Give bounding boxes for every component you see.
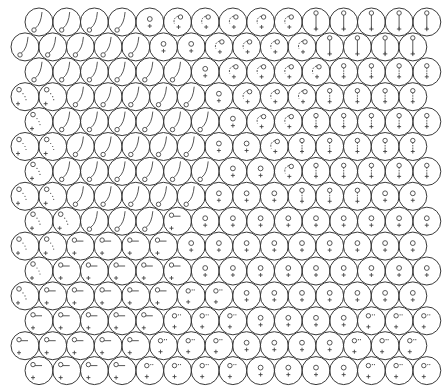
glyph-cell <box>136 108 164 136</box>
glyph-cell <box>302 108 330 136</box>
glyph-cell <box>219 207 247 235</box>
glyph-cell <box>94 232 122 260</box>
glyph-cell <box>274 157 302 185</box>
glyph-cell <box>260 332 288 360</box>
glyph-cell <box>164 357 192 385</box>
glyph-cell <box>330 257 358 285</box>
glyph-cell <box>247 357 275 385</box>
glyph-cell <box>385 357 413 385</box>
glyph-cell <box>11 33 39 61</box>
glyph-cell <box>219 157 247 185</box>
glyph-cell <box>302 8 330 36</box>
glyph-cell <box>39 332 67 360</box>
glyph-cell <box>330 157 358 185</box>
glyph-cell <box>191 307 219 335</box>
glyph-cell <box>164 157 192 185</box>
glyph-cell <box>316 182 344 210</box>
glyph-cell <box>316 133 344 161</box>
glyph-cell <box>80 8 108 36</box>
glyph-cell <box>177 33 205 61</box>
glyph-cell <box>94 83 122 111</box>
glyph-cell <box>385 207 413 235</box>
glyph-cell <box>11 282 39 310</box>
glyph-cell <box>164 257 192 285</box>
glyph-cell <box>136 58 164 86</box>
glyph-cell <box>177 282 205 310</box>
glyph-cell <box>150 133 178 161</box>
glyph-cell <box>343 133 371 161</box>
glyph-cell <box>260 83 288 111</box>
glyph-cell <box>39 133 67 161</box>
glyph-cell <box>108 108 136 136</box>
glyph-cell <box>371 232 399 260</box>
glyph-cell <box>371 282 399 310</box>
glyph-cell <box>53 307 81 335</box>
glyph-cell <box>260 33 288 61</box>
glyph-cell <box>274 8 302 36</box>
glyph-cell <box>357 108 385 136</box>
glyph-cell <box>39 232 67 260</box>
glyph-cell <box>343 282 371 310</box>
glyph-grid-figure <box>0 0 448 392</box>
glyph-cell <box>66 282 94 310</box>
glyph-cell <box>330 307 358 335</box>
glyph-cell <box>413 58 441 86</box>
glyph-cell <box>80 307 108 335</box>
glyph-cell <box>399 33 427 61</box>
glyph-cell <box>191 207 219 235</box>
glyph-cell <box>53 257 81 285</box>
glyph-cell <box>385 307 413 335</box>
glyph-cell <box>108 257 136 285</box>
glyph-cell <box>122 182 150 210</box>
glyph-cell <box>150 332 178 360</box>
glyph-cell <box>25 8 53 36</box>
glyph-cell <box>274 257 302 285</box>
glyph-cell <box>108 207 136 235</box>
glyph-cell <box>247 207 275 235</box>
glyph-cell <box>122 133 150 161</box>
glyph-cell <box>25 58 53 86</box>
glyph-cell <box>260 232 288 260</box>
glyph-cell <box>108 58 136 86</box>
glyph-cell <box>288 282 316 310</box>
glyph-cell <box>385 157 413 185</box>
glyph-cell <box>94 182 122 210</box>
glyph-cell <box>371 133 399 161</box>
glyph-cell <box>66 232 94 260</box>
glyph-cell <box>343 33 371 61</box>
glyph-cell <box>260 182 288 210</box>
glyph-cell <box>80 157 108 185</box>
glyph-cell <box>316 282 344 310</box>
glyph-cell <box>385 257 413 285</box>
glyph-cell <box>219 108 247 136</box>
glyph-cell <box>25 257 53 285</box>
glyph-cell <box>136 357 164 385</box>
glyph-cell <box>219 58 247 86</box>
glyph-cell <box>164 207 192 235</box>
glyph-cell <box>247 307 275 335</box>
glyph-cell <box>80 108 108 136</box>
glyph-cell <box>205 133 233 161</box>
glyph-cell <box>371 33 399 61</box>
glyph-cell <box>247 257 275 285</box>
glyph-cell <box>247 58 275 86</box>
glyph-cell <box>288 133 316 161</box>
glyph-cell <box>399 83 427 111</box>
glyph-cell <box>205 182 233 210</box>
glyph-cell <box>80 207 108 235</box>
glyph-cell <box>80 257 108 285</box>
glyph-cell <box>136 157 164 185</box>
glyph-cell <box>330 58 358 86</box>
glyph-cell <box>108 307 136 335</box>
glyph-cell <box>25 108 53 136</box>
glyph-cell <box>11 232 39 260</box>
glyph-cell <box>53 8 81 36</box>
glyph-cell <box>260 133 288 161</box>
glyph-cell <box>385 8 413 36</box>
glyph-cell <box>191 8 219 36</box>
glyph-cell <box>413 207 441 235</box>
glyph-cell <box>288 232 316 260</box>
glyph-cell <box>399 282 427 310</box>
glyph-cell <box>191 108 219 136</box>
glyph-cell <box>205 332 233 360</box>
